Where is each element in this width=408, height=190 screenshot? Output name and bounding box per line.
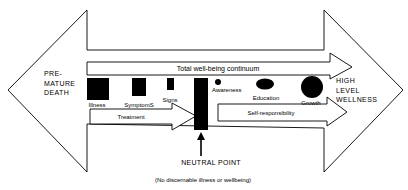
high-level-wellness-label: HIGH LEVEL WELLNESS	[336, 76, 377, 105]
high-level-wellness-line-2: LEVEL	[336, 86, 377, 96]
growth-label: Growth	[301, 100, 320, 106]
neutral-point-caption: (No discernable illness or wellbeing)	[155, 177, 251, 183]
awareness-label: Awareness	[212, 87, 242, 93]
neutral-point-bar	[194, 78, 208, 130]
education-ellipse	[256, 79, 274, 90]
neutral-arrow-head-icon	[197, 132, 205, 140]
total-wellbeing-label: Total well-being continuum	[177, 65, 260, 72]
signs-block	[167, 78, 174, 90]
wellness-continuum-diagram: PRE- MATURE DEATH HIGH LEVEL WELLNESS To…	[0, 0, 408, 190]
neutral-point-label: NEUTRAL POINT	[181, 159, 241, 166]
premature-death-line-3: DEATH	[44, 88, 75, 98]
treatment-label: Treatment	[117, 114, 144, 120]
premature-death-line-2: MATURE	[44, 79, 75, 89]
symptoms-block	[132, 78, 146, 96]
self-responsibility-label: Self-responsibility	[247, 110, 294, 116]
symptoms-label: SymptomS	[124, 102, 153, 108]
premature-death-label: PRE- MATURE DEATH	[44, 69, 75, 98]
illness-block	[87, 78, 109, 100]
illness-label: Illness	[88, 102, 105, 108]
awareness-dot	[215, 79, 221, 85]
signs-label: Signs	[162, 97, 177, 103]
high-level-wellness-line-1: HIGH	[336, 76, 377, 86]
premature-death-line-1: PRE-	[44, 69, 75, 79]
growth-circle	[301, 76, 323, 98]
education-label: Education	[253, 95, 280, 101]
high-level-wellness-line-3: WELLNESS	[336, 95, 377, 105]
